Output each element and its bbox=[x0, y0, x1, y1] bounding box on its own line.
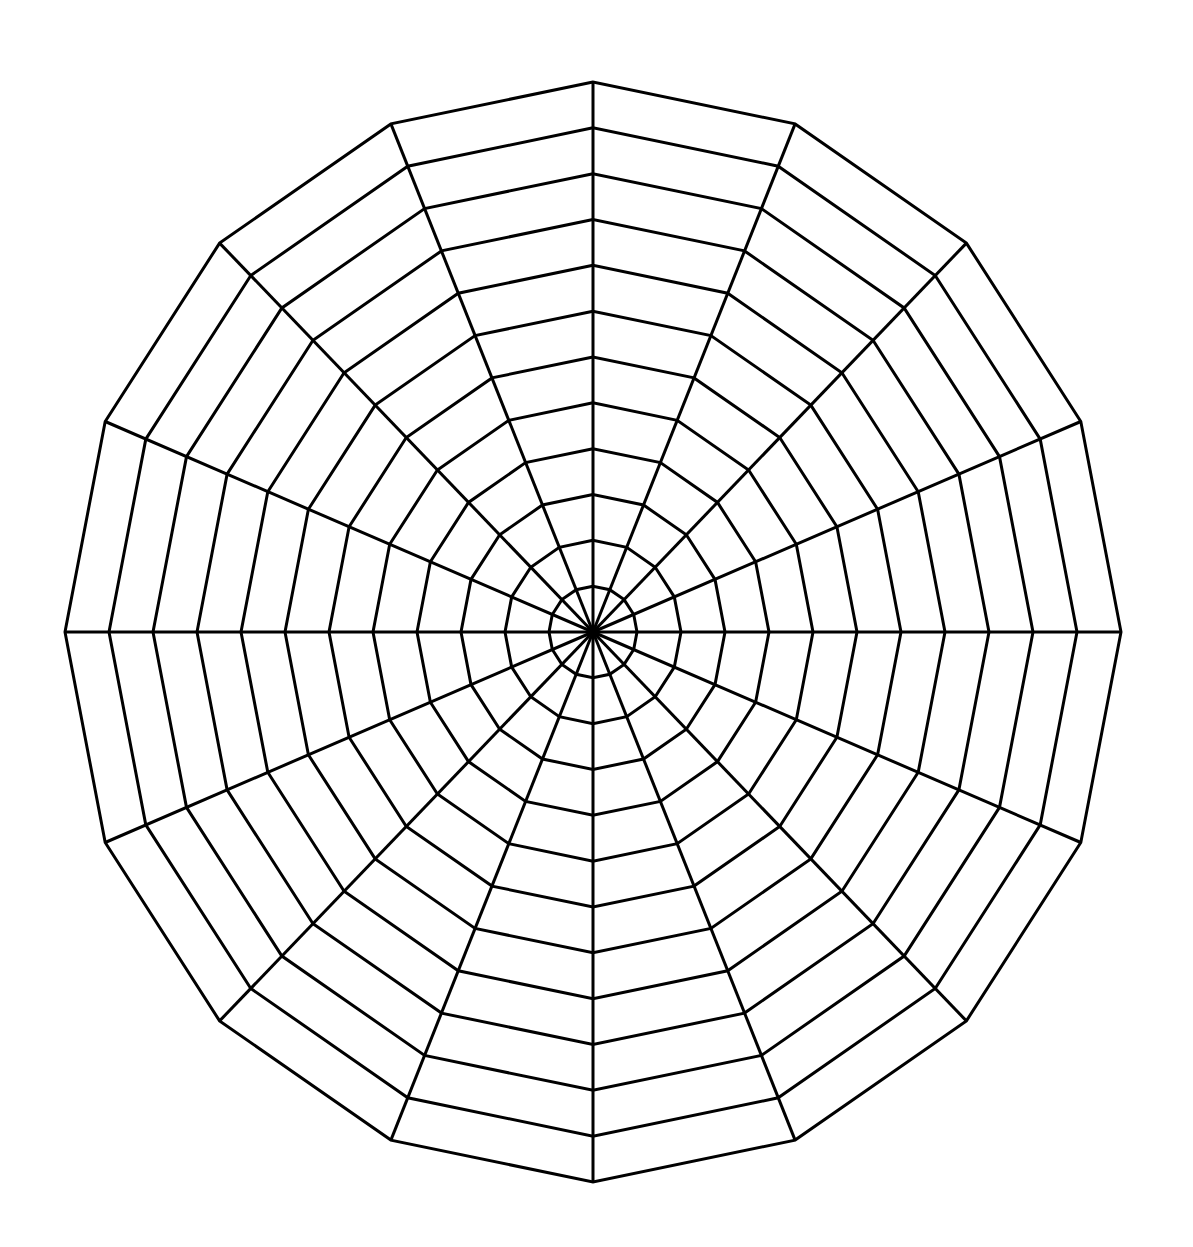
spoke-2 bbox=[391, 124, 593, 632]
spoke-6 bbox=[105, 632, 593, 843]
radial-spokes bbox=[65, 82, 1121, 1182]
spoke-11 bbox=[593, 632, 966, 1021]
spoke-4 bbox=[105, 422, 593, 633]
spider-web-graphic bbox=[0, 0, 1193, 1247]
spoke-15 bbox=[593, 243, 966, 632]
spoke-10 bbox=[593, 632, 795, 1140]
spoke-12 bbox=[593, 632, 1081, 843]
spoke-8 bbox=[391, 632, 593, 1140]
spoke-16 bbox=[593, 124, 795, 632]
spoke-14 bbox=[593, 422, 1081, 633]
spoke-7 bbox=[220, 632, 593, 1021]
spoke-3 bbox=[220, 243, 593, 632]
